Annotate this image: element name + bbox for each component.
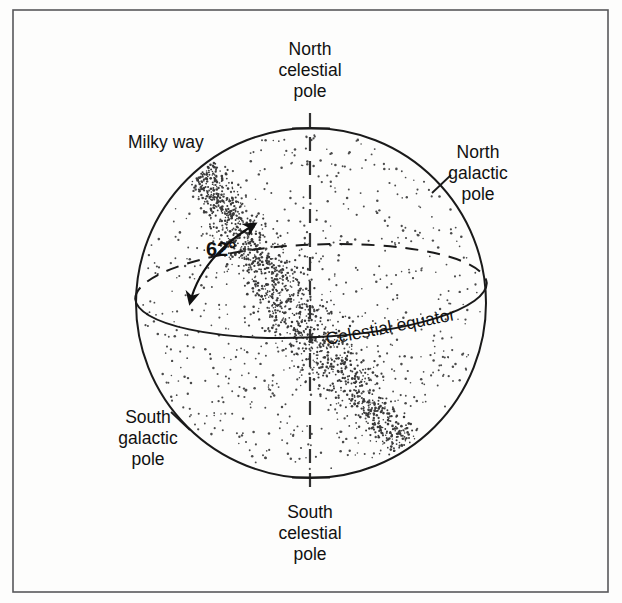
north-celestial-pole-line-1: North [289, 39, 332, 59]
south-galactic-pole-line-2: galactic [118, 428, 178, 448]
milky-way-label: Milky way [128, 132, 204, 152]
tilt-angle-label: 62° [206, 238, 236, 260]
celestial-sphere-figure: North celestial pole South celestial pol… [0, 0, 622, 603]
celestial-sphere-diagram: North celestial pole South celestial pol… [0, 0, 622, 603]
north-galactic-pole-line-2: galactic [448, 163, 508, 183]
south-celestial-pole-line-1: South [287, 502, 333, 522]
south-galactic-pole-line-3: pole [131, 449, 164, 469]
south-celestial-pole-line-3: pole [293, 544, 326, 564]
north-celestial-pole-line-3: pole [293, 81, 326, 101]
south-celestial-pole-line-2: celestial [278, 523, 341, 543]
north-galactic-pole-line-1: North [457, 142, 500, 162]
south-galactic-pole-line-1: South [125, 407, 171, 427]
north-galactic-pole-line-3: pole [461, 184, 494, 204]
north-celestial-pole-line-2: celestial [278, 60, 341, 80]
